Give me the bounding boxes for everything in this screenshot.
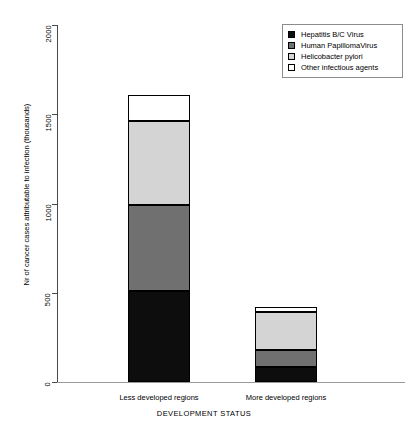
stacked-bar-chart: Nr of cancer cases attributable to infec… <box>0 0 408 423</box>
y-tick-label-1000: 1000 <box>0 200 48 208</box>
bar-segment-human-papillomavirus <box>255 350 317 367</box>
y-axis-line <box>57 25 58 382</box>
y-tick-label-1500: 1500 <box>0 110 48 118</box>
y-tick-2000 <box>52 25 57 26</box>
y-tick-1000 <box>52 204 57 205</box>
legend-swatch-icon-helicobacter-pylori <box>288 53 295 60</box>
y-tick-1500 <box>52 114 57 115</box>
legend-label-human-papillomavirus: Human PapillomaVirus <box>301 41 377 50</box>
legend-item-helicobacter-pylori: Helicobacter pylori <box>288 51 398 62</box>
x-tick-label-more-developed: More developed regions <box>226 393 346 402</box>
x-axis-line <box>57 382 405 383</box>
legend-label-helicobacter-pylori: Helicobacter pylori <box>301 52 363 61</box>
legend-label-hepatitis-bc-virus: Hepatitis B/C Virus <box>301 30 364 39</box>
legend-label-other-infectious-agents: Other infectious agents <box>301 63 378 72</box>
legend-item-hepatitis-bc-virus: Hepatitis B/C Virus <box>288 29 398 40</box>
y-tick-500 <box>52 293 57 294</box>
bar-segment-hepatitis-bc-virus <box>128 291 190 382</box>
y-tick-label-1000-text: 1000 <box>44 204 52 222</box>
legend-item-human-papillomavirus: Human PapillomaVirus <box>288 40 398 51</box>
legend-swatch-icon-hepatitis-bc-virus <box>288 31 295 38</box>
y-tick-label-0: 0 <box>0 378 48 386</box>
legend-swatch-icon-other-infectious-agents <box>288 64 295 71</box>
bar-less-developed-regions <box>128 95 190 382</box>
bar-segment-hepatitis-bc-virus <box>255 367 317 382</box>
bar-segment-helicobacter-pylori <box>128 121 190 205</box>
legend-item-other-infectious-agents: Other infectious agents <box>288 62 398 73</box>
y-tick-label-0-text: 0 <box>44 382 52 386</box>
bar-segment-helicobacter-pylori <box>255 312 317 350</box>
x-axis-title: DEVELOPMENT STATUS <box>0 409 408 418</box>
y-tick-label-2000-text: 2000 <box>44 25 52 43</box>
bar-segment-other-infectious-agents <box>128 95 190 121</box>
x-tick-label-less-developed: Less developed regions <box>99 393 219 402</box>
legend: Hepatitis B/C Virus Human PapillomaVirus… <box>282 24 403 78</box>
legend-swatch-icon-human-papillomavirus <box>288 42 295 49</box>
bar-more-developed-regions <box>255 307 317 382</box>
y-tick-label-1500-text: 1500 <box>44 114 52 132</box>
y-tick-label-2000: 2000 <box>0 21 48 29</box>
y-tick-label-500: 500 <box>0 289 48 297</box>
bar-segment-human-papillomavirus <box>128 205 190 291</box>
y-tick-label-500-text: 500 <box>44 293 52 306</box>
